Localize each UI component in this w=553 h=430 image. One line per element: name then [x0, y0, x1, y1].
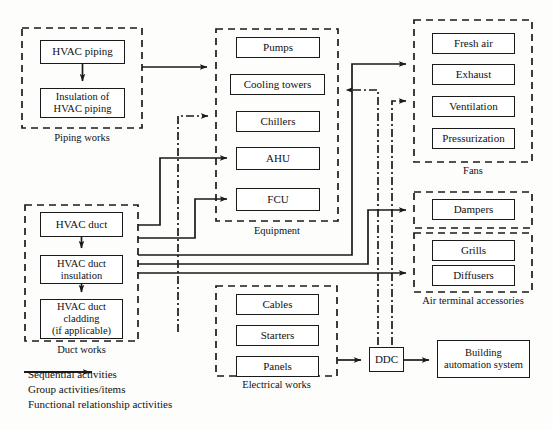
- sequential-connectors: [82, 64, 430, 360]
- group-label-electrical-works: Electrical works: [216, 379, 337, 390]
- node-label: FCU: [267, 194, 288, 206]
- node-panels[interactable]: Panels: [236, 356, 319, 377]
- hvac-breakdown-diagram: HVAC piping Insulation of HVAC piping Pu…: [0, 0, 553, 430]
- node-dampers[interactable]: Dampers: [432, 199, 515, 220]
- node-label: AHU: [266, 153, 290, 165]
- node-label: HVAC piping: [52, 46, 113, 58]
- functional-line-ddc-to-fans: [392, 101, 406, 345]
- node-diffusers[interactable]: Diffusers: [432, 265, 515, 286]
- group-label-piping-works: Piping works: [22, 132, 142, 143]
- legend-item-group: Group activities/items: [22, 381, 172, 396]
- node-label: Starters: [261, 330, 295, 342]
- node-label: Panels: [263, 361, 292, 373]
- group-label-fans: Fans: [414, 165, 532, 176]
- node-label: Cables: [263, 299, 293, 311]
- group-label-text: Duct works: [57, 344, 106, 355]
- legend-swatch-dashdot-icon: [22, 366, 100, 378]
- group-label-text: Air terminal accessories: [422, 295, 523, 306]
- node-insulation-of-hvac-piping[interactable]: Insulation of HVAC piping: [40, 88, 125, 118]
- node-label: Ventilation: [449, 101, 497, 113]
- node-hvac-duct-cladding[interactable]: HVAC duct cladding (if applicable): [40, 299, 123, 339]
- node-label: Building automation system: [444, 347, 523, 371]
- group-label-text: Equipment: [254, 225, 300, 236]
- node-label: Chillers: [261, 116, 296, 128]
- node-cooling-towers[interactable]: Cooling towers: [230, 74, 325, 95]
- group-label-duct-works: Duct works: [25, 344, 138, 355]
- arrow-duct-to-ahu: [138, 158, 227, 225]
- node-ventilation[interactable]: Ventilation: [432, 96, 515, 117]
- node-cables[interactable]: Cables: [236, 294, 319, 315]
- group-label-equipment: Equipment: [216, 225, 338, 236]
- arrow-duct-to-fcu: [138, 199, 227, 238]
- node-label: Dampers: [454, 204, 494, 216]
- node-hvac-duct[interactable]: HVAC duct: [40, 212, 123, 237]
- functional-line-electrical-to-equipment: [178, 116, 208, 332]
- legend-label: Group activities/items: [28, 383, 125, 395]
- node-grills[interactable]: Grills: [432, 240, 515, 261]
- group-label-text: Electrical works: [242, 379, 311, 390]
- node-fresh-air[interactable]: Fresh air: [432, 33, 515, 54]
- node-hvac-duct-insulation[interactable]: HVAC duct insulation: [40, 255, 123, 284]
- legend-item-functional: Functional relationship activities: [22, 396, 172, 411]
- node-ahu[interactable]: AHU: [236, 147, 320, 170]
- node-label: Fresh air: [454, 38, 493, 50]
- node-label: Insulation of HVAC piping: [54, 91, 112, 115]
- node-label: Grills: [461, 245, 486, 257]
- node-chillers[interactable]: Chillers: [236, 111, 320, 132]
- legend: Sequential activities Group activities/i…: [22, 366, 172, 411]
- group-label-air-terminal-accessories: Air terminal accessories: [398, 295, 548, 306]
- node-pressurization[interactable]: Pressurization: [432, 128, 515, 149]
- node-label: Pressurization: [442, 133, 504, 145]
- node-label: Exhaust: [456, 69, 491, 81]
- node-label: DDC: [375, 354, 398, 366]
- node-label: Cooling towers: [244, 79, 312, 91]
- node-fcu[interactable]: FCU: [236, 188, 320, 211]
- legend-label: Functional relationship activities: [28, 398, 172, 410]
- group-label-text: Fans: [463, 165, 483, 176]
- node-label: HVAC duct: [56, 219, 107, 231]
- node-label: HVAC duct cladding (if applicable): [52, 301, 111, 336]
- node-ddc[interactable]: DDC: [369, 347, 404, 372]
- node-exhaust[interactable]: Exhaust: [432, 64, 515, 85]
- node-label: Pumps: [263, 42, 293, 54]
- node-hvac-piping[interactable]: HVAC piping: [40, 40, 125, 64]
- node-label: Diffusers: [453, 270, 494, 282]
- node-building-automation-system[interactable]: Building automation system: [437, 340, 530, 378]
- node-pumps[interactable]: Pumps: [236, 37, 320, 58]
- functional-line-ddc-to-equipment: [346, 90, 378, 345]
- node-starters[interactable]: Starters: [236, 325, 319, 346]
- node-label: HVAC duct insulation: [57, 258, 106, 282]
- group-label-text: Piping works: [54, 132, 110, 143]
